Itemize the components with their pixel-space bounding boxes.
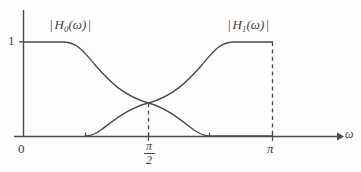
highpass-response-curve — [86, 42, 273, 136]
half-pi-numerator: π — [141, 140, 157, 153]
magnitude-bar-close: | — [264, 18, 271, 31]
x-axis-label-omega: ω — [345, 128, 353, 140]
x-axis-arrowhead — [337, 132, 344, 140]
x-tick-label-half-pi: π 2 — [141, 140, 157, 168]
magnitude-bar-close: | — [86, 18, 93, 31]
x-tick-label-pi: π — [267, 142, 274, 155]
y-tick-label-one: 1 — [8, 34, 15, 47]
transfer-function-name-h1: H — [233, 17, 242, 32]
magnitude-bar-open: | — [48, 18, 55, 31]
argument-omega-h1: (ω) — [246, 17, 264, 32]
x-tick-label-zero: 0 — [18, 142, 25, 155]
highpass-curve-label: |H1(ω)| — [226, 18, 271, 34]
argument-omega-h0: (ω) — [68, 17, 86, 32]
half-pi-denominator: 2 — [141, 154, 157, 167]
lowpass-curve-label: |H0(ω)| — [48, 18, 93, 34]
transfer-function-name-h0: H — [55, 17, 64, 32]
magnitude-bar-open: | — [226, 18, 233, 31]
filter-magnitude-response-figure: 1 0 π 2 π ω |H0(ω)| |H1(ω)| — [0, 0, 361, 172]
lowpass-response-curve — [24, 42, 273, 136]
